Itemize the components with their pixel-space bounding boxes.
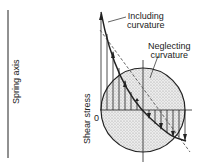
spring-axis-label: Spring axis <box>11 59 21 104</box>
neglecting-curvature-label: Neglecting curvature <box>148 42 191 60</box>
zero-label: 0 <box>94 113 99 123</box>
shear-stress-label: Shear stress <box>82 93 92 144</box>
spring-stress-diagram: Spring axis Shear stress 0 Including cur… <box>0 0 200 166</box>
including-leader <box>108 17 126 22</box>
diagram-graphic <box>0 0 200 166</box>
including-curvature-label: Including curvature <box>127 12 165 30</box>
